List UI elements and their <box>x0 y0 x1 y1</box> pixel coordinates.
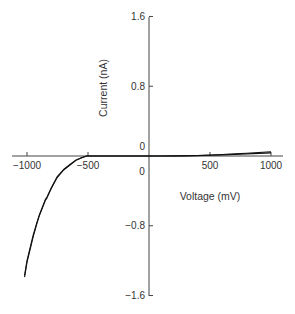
data-series <box>25 152 271 277</box>
y-tick-label: −0.8 <box>125 220 145 231</box>
x-tick-label: 0 <box>139 166 145 177</box>
x-tick-label: 500 <box>202 160 219 171</box>
x-tick-label: 1000 <box>260 160 283 171</box>
x-tick-label: −500 <box>77 160 100 171</box>
iv-curve-chart: −1000−500050010001.60.80−0.8−1.6 Voltage… <box>0 0 295 314</box>
y-tick-label: 0.8 <box>131 81 145 92</box>
x-tick-label: −1000 <box>13 160 42 171</box>
x-axis-title: Voltage (mV) <box>180 190 241 202</box>
y-tick-label: −1.6 <box>125 290 145 301</box>
iv-trace-2 <box>25 152 271 276</box>
y-tick-label: 1.6 <box>131 11 145 22</box>
y-axis-title: Current (nA) <box>97 59 109 117</box>
y-tick-label: 0 <box>139 141 145 152</box>
